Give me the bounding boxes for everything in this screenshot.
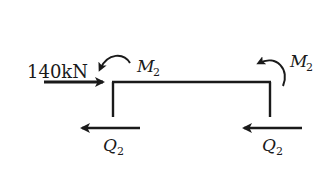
moment-arc-icon xyxy=(100,56,130,69)
shear-left: Q 2 xyxy=(82,128,140,158)
frame xyxy=(112,82,271,117)
shear-right-subscript: 2 xyxy=(276,145,283,158)
shear-right-symbol: Q xyxy=(262,135,276,155)
moment-right-subscript: 2 xyxy=(306,61,313,74)
moment-left: M 2 xyxy=(100,56,160,79)
applied-load: 140kN xyxy=(27,61,103,82)
shear-left-symbol: Q xyxy=(103,135,117,155)
moment-right: M 2 xyxy=(259,51,313,86)
shear-right: Q 2 xyxy=(244,128,302,158)
load-label: 140kN xyxy=(27,61,88,82)
moment-left-subscript: 2 xyxy=(153,66,160,79)
shear-left-subscript: 2 xyxy=(117,145,124,158)
free-body-diagram: 140kN M 2 M 2 Q 2 Q 2 xyxy=(0,0,333,184)
